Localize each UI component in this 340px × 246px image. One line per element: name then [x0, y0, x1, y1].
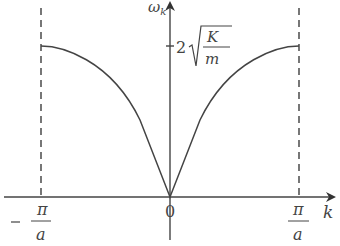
y-tick-numerator: K	[206, 28, 219, 46]
x-tick-right-numerator: π	[292, 200, 304, 219]
x-tick-right-denominator: a	[293, 225, 303, 244]
y-tick-denominator: m	[205, 50, 219, 68]
x-tick-left-numerator: π	[36, 200, 48, 219]
y-tick-coefficient: 2	[176, 38, 186, 57]
y-tick-label: 2 K m	[176, 26, 232, 68]
origin-label: 0	[165, 202, 175, 221]
x-axis-label: k	[323, 202, 333, 222]
y-axis-label: ωk	[148, 0, 166, 17]
x-tick-right: π a	[288, 200, 309, 244]
x-tick-left-denominator: a	[36, 225, 46, 244]
x-tick-left: π a	[11, 200, 51, 244]
dispersion-diagram: ωk 2 K m π a 0 π a k	[0, 0, 340, 246]
